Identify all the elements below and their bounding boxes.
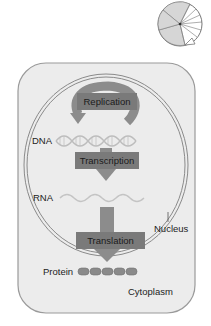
- translation-label: Translation: [87, 235, 134, 246]
- protein-label: Protein: [43, 267, 73, 277]
- translation-box: Translation: [76, 232, 145, 249]
- replication-label: Replication: [84, 96, 131, 107]
- dna-label: DNA: [32, 136, 52, 146]
- replication-box: Replication: [77, 93, 137, 110]
- transcription-box: Transcription: [75, 152, 139, 169]
- protein-chain-icon: [78, 268, 137, 275]
- rna-label: RNA: [33, 193, 53, 203]
- translation-arrow-stem: [100, 207, 114, 233]
- cytoplasm-label: Cytoplasm: [128, 287, 173, 297]
- nucleus-label: Nucleus: [154, 224, 188, 234]
- transcription-label: Transcription: [80, 155, 135, 166]
- cell-cycle-pie-icon: [158, 2, 202, 46]
